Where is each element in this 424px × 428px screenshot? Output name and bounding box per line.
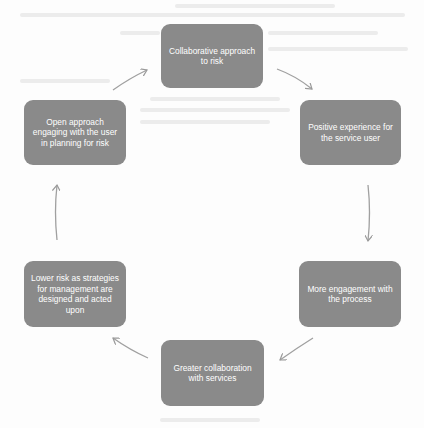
background-bleed-line [150, 97, 280, 101]
node-label: Open approach engaging with the user in … [30, 117, 120, 149]
node-label: More engagement with the process [305, 284, 395, 305]
cycle-node-lower-risk: Lower risk as strategies for management … [24, 261, 126, 327]
arrow-right-icon [277, 69, 312, 89]
arrow-down-left-icon [280, 338, 313, 360]
arrow-up-right-icon [113, 70, 147, 90]
background-bleed-line [140, 120, 270, 124]
background-bleed-line [20, 13, 405, 17]
cycle-node-more-engagement: More engagement with the process [299, 261, 401, 327]
cycle-node-greater-collaboration: Greater collaboration with services [161, 340, 264, 406]
background-bleed-line [160, 418, 260, 422]
node-label: Lower risk as strategies for management … [30, 273, 120, 315]
cycle-diagram: Collaborative approach to risk Positive … [0, 0, 424, 428]
node-label: Collaborative approach to risk [167, 46, 257, 67]
background-bleed-line [268, 47, 408, 51]
background-bleed-line [120, 31, 160, 35]
arrow-up-left-icon [113, 338, 148, 358]
node-label: Positive experience for the service user [306, 122, 395, 143]
cycle-node-positive-experience: Positive experience for the service user [300, 100, 401, 165]
background-bleed-line [140, 108, 290, 112]
background-bleed-line [175, 4, 335, 8]
cycle-node-open-approach: Open approach engaging with the user in … [24, 100, 126, 165]
cycle-node-collaborative-approach: Collaborative approach to risk [161, 24, 263, 88]
background-bleed-line [268, 31, 378, 35]
arrow-up-icon [56, 185, 58, 240]
node-label: Greater collaboration with services [167, 363, 258, 384]
background-bleed-line [20, 79, 110, 83]
arrow-down-icon [368, 185, 370, 241]
